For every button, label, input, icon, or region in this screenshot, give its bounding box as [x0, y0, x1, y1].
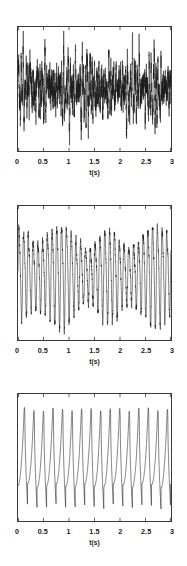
xaxis-ticklabels-2: 00.511.522.53 [17, 345, 172, 356]
xaxis-ticklabel: 1 [67, 526, 71, 537]
panel-1: 00.511.522.53 t(s) [0, 26, 187, 186]
plot-frame-2 [17, 205, 172, 341]
xaxis-ticklabel: 2.5 [141, 345, 151, 356]
xaxis-ticklabel: 1 [67, 345, 71, 356]
xaxis-ticklabel: 1.5 [89, 345, 99, 356]
plot-frame-3 [17, 393, 172, 522]
xaxis-ticklabel: 2 [118, 345, 122, 356]
ticks-3 [19, 394, 171, 521]
plot-frame-1 [17, 26, 172, 152]
waveform-1 [18, 27, 171, 151]
xaxis-ticklabels-3: 00.511.522.53 [17, 526, 172, 537]
xaxis-ticklabel: 2.5 [141, 526, 151, 537]
xaxis-ticklabel: 2 [118, 526, 122, 537]
waveform-2 [18, 206, 171, 340]
xaxis-ticklabel: 0 [15, 345, 19, 356]
signal-path-2 [18, 224, 171, 335]
xaxis-ticklabel: 0 [15, 156, 19, 167]
figure-three-time-series: 00.511.522.53 t(s) 00.511.522.53 t(s) 00… [0, 0, 187, 566]
xaxis-ticklabel: 0 [15, 526, 19, 537]
panel-2: 00.511.522.53 t(s) [0, 205, 187, 365]
xaxis-ticklabel: 0.5 [38, 526, 48, 537]
waveform-3 [18, 394, 171, 521]
xaxis-ticklabel: 1.5 [89, 156, 99, 167]
panel-3: 00.511.522.53 t(s) [0, 393, 187, 553]
xaxis-title-2: t(s) [17, 358, 172, 365]
xaxis-title-1: t(s) [17, 169, 172, 176]
xaxis-ticklabels-1: 00.511.522.53 [17, 156, 172, 167]
signal-path-1 [18, 31, 171, 145]
xaxis-ticklabel: 1.5 [89, 526, 99, 537]
xaxis-ticklabel: 0.5 [38, 345, 48, 356]
xaxis-ticklabel: 3 [170, 526, 174, 537]
xaxis-ticklabel: 1 [67, 156, 71, 167]
xaxis-ticklabel: 0.5 [38, 156, 48, 167]
xaxis-ticklabel: 2.5 [141, 156, 151, 167]
xaxis-ticklabel: 3 [170, 345, 174, 356]
xaxis-ticklabel: 2 [118, 156, 122, 167]
signal-path-3 [18, 407, 171, 509]
xaxis-title-3: t(s) [17, 539, 172, 546]
xaxis-ticklabel: 3 [170, 156, 174, 167]
